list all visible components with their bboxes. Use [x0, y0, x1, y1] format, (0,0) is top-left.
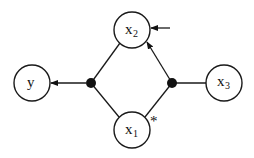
node-x2-label: x [125, 21, 133, 37]
node-x3-label: x [217, 73, 225, 89]
node-x1-subscript: 1 [133, 128, 138, 139]
edge-x1-to-right-junction [145, 83, 172, 117]
node-x2-subscript: 2 [133, 28, 138, 39]
diagram-canvas: x 2 y x 3 x 1 * [0, 0, 254, 158]
x1-asterisk-annotation: * [150, 113, 158, 129]
node-x3: x 3 [206, 65, 242, 101]
node-x3-subscript: 3 [225, 80, 230, 91]
node-y-label: y [27, 74, 35, 90]
node-x1: x 1 [114, 112, 150, 148]
right-junction-dot [167, 78, 177, 88]
edge-right-junction-to-x2 [147, 42, 172, 83]
left-junction-dot [86, 78, 96, 88]
edge-x1-to-left-junction [91, 83, 119, 117]
node-x1-label: x [125, 121, 133, 137]
node-y: y [14, 65, 50, 101]
edge-x2-to-left-junction [91, 43, 120, 83]
node-x2: x 2 [114, 12, 150, 48]
